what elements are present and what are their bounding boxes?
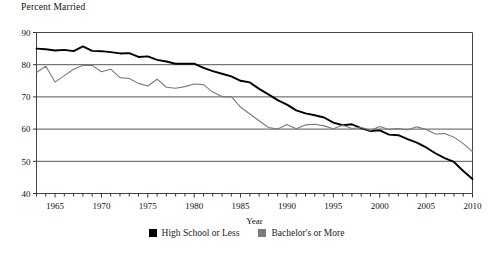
ytick-label-40: 40 bbox=[22, 189, 32, 199]
xtick-label-1970: 1970 bbox=[92, 201, 111, 211]
xtick-label-1985: 1985 bbox=[232, 201, 251, 211]
legend-label-bachelors-or-more: Bachelor's or More bbox=[271, 229, 344, 239]
xtick-label-1990: 1990 bbox=[278, 201, 297, 211]
xtick-label-1995: 1995 bbox=[324, 201, 343, 211]
ytick-label-60: 60 bbox=[22, 124, 32, 134]
legend-swatch-high-school-or-less bbox=[149, 229, 157, 237]
chart-figure: Percent Married 405060708090196519701975… bbox=[0, 0, 493, 256]
ytick-label-90: 90 bbox=[22, 28, 32, 38]
plot-area: 4050607080901965197019751980198519901995… bbox=[0, 0, 493, 256]
xtick-label-1965: 1965 bbox=[46, 201, 65, 211]
ytick-label-70: 70 bbox=[22, 92, 32, 102]
ytick-label-80: 80 bbox=[22, 60, 32, 70]
series-line-high-school-or-less bbox=[37, 46, 473, 179]
legend-label-high-school-or-less: High School or Less bbox=[162, 229, 240, 239]
legend-swatch-bachelors-or-more bbox=[258, 229, 266, 237]
xtick-label-2005: 2005 bbox=[417, 201, 436, 211]
legend-item-bachelors-or-more: Bachelor's or More bbox=[258, 228, 344, 238]
ytick-label-50: 50 bbox=[22, 157, 32, 167]
legend-item-high-school-or-less: High School or Less bbox=[149, 228, 240, 238]
x-axis-title: Year bbox=[246, 216, 263, 226]
xtick-label-2000: 2000 bbox=[371, 201, 390, 211]
xtick-label-2010: 2010 bbox=[464, 201, 483, 211]
xtick-label-1980: 1980 bbox=[185, 201, 204, 211]
xtick-label-1975: 1975 bbox=[139, 201, 158, 211]
chart-legend: High School or Less Bachelor's or More bbox=[0, 228, 493, 238]
